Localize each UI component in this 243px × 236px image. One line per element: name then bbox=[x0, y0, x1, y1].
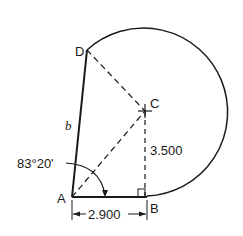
geometry-diagram: D C A B b 83°20' 3.500 2.900 bbox=[0, 0, 243, 236]
label-b: B bbox=[150, 201, 159, 216]
label-side-b: b bbox=[65, 118, 72, 133]
dashed-dc bbox=[87, 50, 145, 111]
angle-arrow-icon bbox=[102, 190, 108, 197]
label-base: 2.900 bbox=[88, 207, 121, 222]
arc-db bbox=[87, 28, 228, 196]
label-c: C bbox=[150, 96, 159, 111]
label-a: A bbox=[57, 191, 66, 206]
dim-arrow-left-icon bbox=[73, 212, 80, 217]
label-height: 3.500 bbox=[150, 143, 183, 158]
dashed-ac bbox=[72, 111, 145, 197]
dim-arrow-right-icon bbox=[139, 212, 146, 217]
label-d: D bbox=[75, 44, 84, 59]
label-angle: 83°20' bbox=[17, 156, 54, 171]
right-angle-icon bbox=[138, 189, 145, 197]
side-ad bbox=[72, 50, 87, 197]
